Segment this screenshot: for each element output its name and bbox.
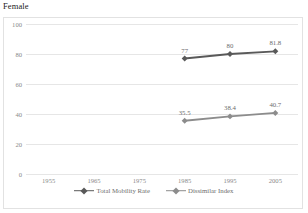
- x-tick-label: 1955: [42, 177, 55, 184]
- y-tick-label: 100: [12, 21, 22, 28]
- y-tick-label: 60: [15, 81, 22, 88]
- data-point-marker: [182, 118, 188, 124]
- y-tick-label: 40: [15, 111, 22, 118]
- data-point-label: 40.7: [269, 101, 281, 108]
- y-tick-label: 0: [19, 171, 22, 178]
- x-tick-label: 1975: [133, 177, 146, 184]
- legend-entry[interactable]: Total Mobility Rate: [74, 186, 150, 195]
- legend-marker-icon: [74, 186, 94, 195]
- data-point-label: 77: [181, 47, 188, 54]
- data-point-label: 81.8: [269, 39, 281, 46]
- data-point-marker: [272, 48, 278, 54]
- x-tick-label: 1965: [87, 177, 100, 184]
- data-point-marker: [227, 51, 233, 57]
- y-tick-label: 20: [15, 141, 22, 148]
- chart-title: Female: [3, 1, 29, 12]
- data-point-marker: [272, 110, 278, 116]
- series-lines: [26, 24, 298, 174]
- x-tick-label: 1985: [178, 177, 191, 184]
- data-point-marker: [182, 56, 188, 62]
- data-point-marker: [227, 113, 233, 119]
- legend-label: Total Mobility Rate: [96, 187, 150, 194]
- data-point-label: 80: [227, 42, 234, 49]
- x-tick-label: 2005: [269, 177, 282, 184]
- x-tick-label: 1995: [223, 177, 236, 184]
- legend-label: Dissimilar Index: [188, 187, 234, 194]
- chart-legend: Total Mobility RateDissimilar Index: [4, 186, 304, 195]
- legend-marker-icon: [166, 186, 186, 195]
- legend-entry[interactable]: Dissimilar Index: [166, 186, 234, 195]
- data-point-label: 35.5: [179, 109, 191, 116]
- data-point-label: 38.4: [224, 104, 236, 111]
- y-tick-label: 80: [15, 51, 22, 58]
- gridline: [26, 174, 298, 175]
- chart-panel: 020406080100 195519651975198519952005 77…: [3, 17, 303, 209]
- plot-area: 020406080100 195519651975198519952005 77…: [26, 24, 298, 174]
